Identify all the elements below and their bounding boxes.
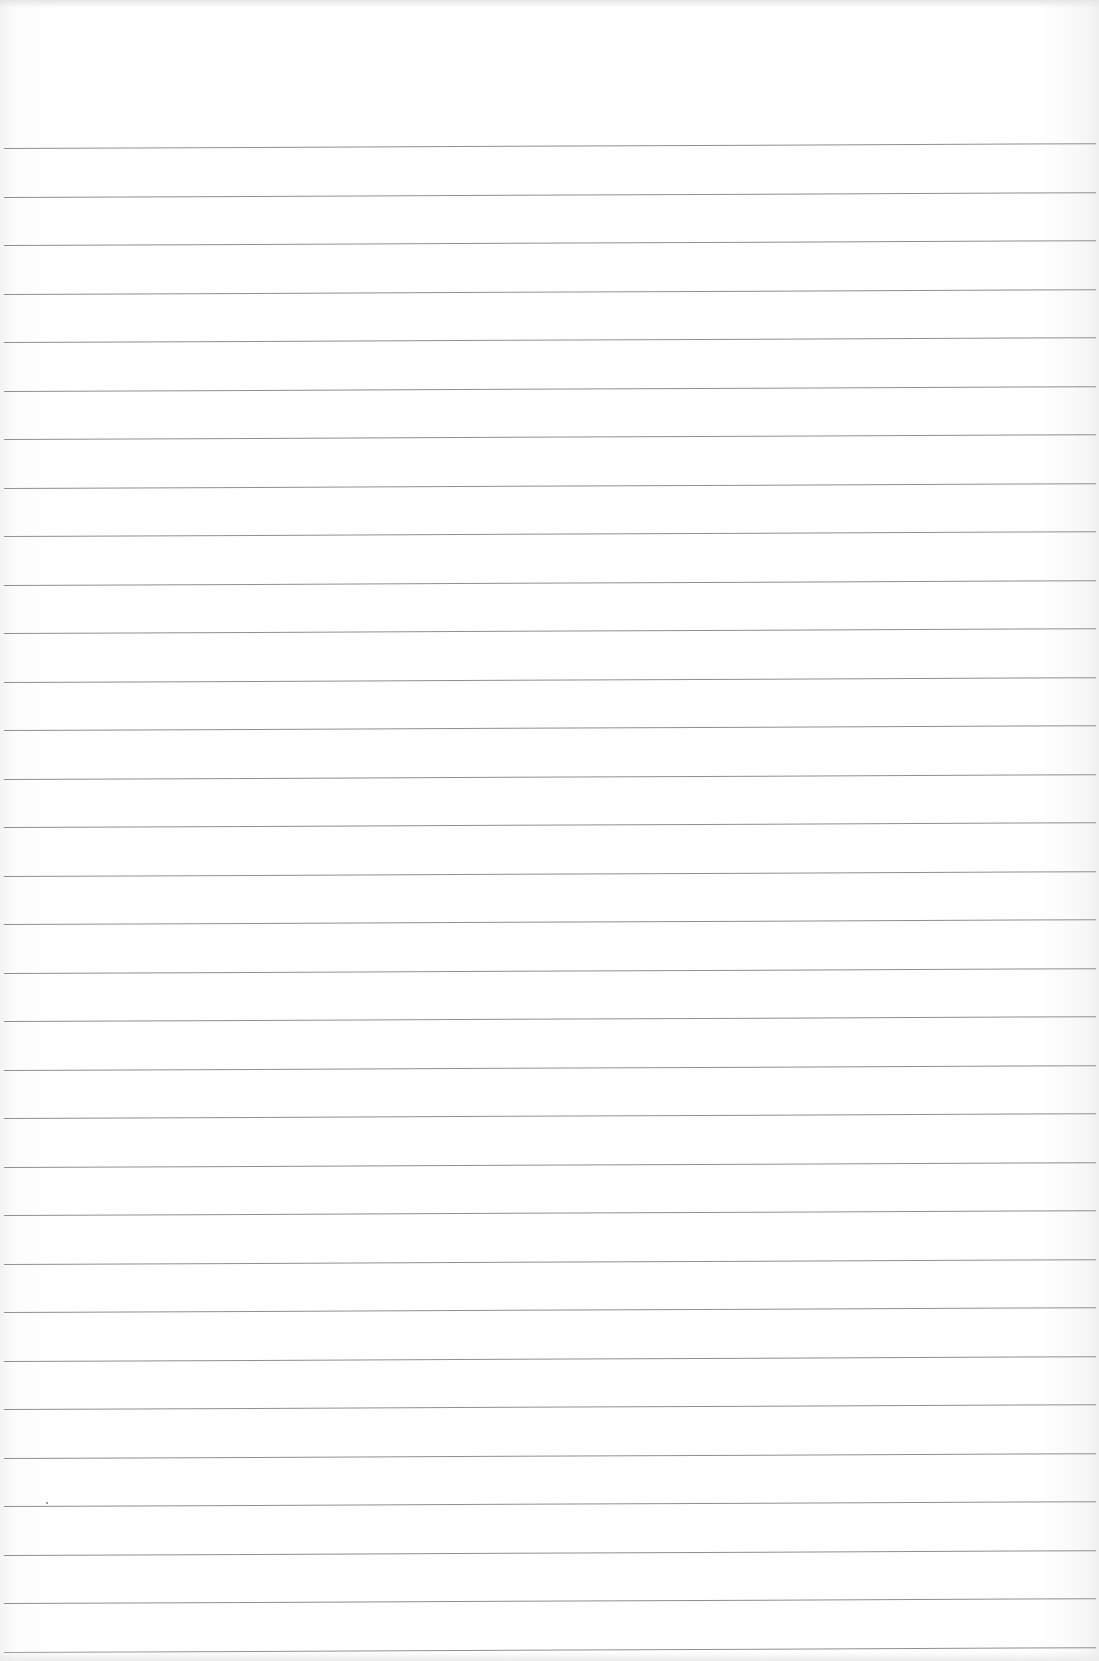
ruled-line: [4, 677, 1096, 683]
ruled-line: [4, 725, 1096, 731]
ruled-line: [4, 1307, 1096, 1313]
ruled-line: [4, 386, 1096, 392]
ruled-line: [4, 628, 1096, 634]
ruled-line: [4, 1016, 1096, 1022]
ruled-line: [4, 822, 1096, 828]
speck: [46, 1502, 48, 1504]
ruled-line: [4, 1550, 1096, 1556]
ruled-line: [4, 774, 1096, 780]
ruled-line: [4, 1404, 1096, 1410]
ruled-line: [4, 1259, 1096, 1265]
ruled-line: [4, 483, 1096, 489]
ruled-line: [4, 1356, 1096, 1362]
ruled-line: [4, 143, 1096, 149]
ruled-line: [4, 919, 1096, 925]
ruled-line: [4, 968, 1096, 974]
ruled-line: [4, 1453, 1096, 1459]
ruled-line: [4, 1501, 1096, 1507]
ruled-line: [4, 531, 1096, 537]
ruled-line: [4, 1113, 1096, 1119]
scan-bottom-edge: [0, 1651, 1099, 1661]
ruled-line: [4, 871, 1096, 877]
ruled-line: [4, 337, 1096, 343]
ruled-line: [4, 1065, 1096, 1071]
ruled-line: [4, 1598, 1096, 1604]
ruled-line: [4, 289, 1096, 295]
ruled-line: [4, 580, 1096, 586]
ruled-line: [4, 1162, 1096, 1168]
ruled-line: [4, 1210, 1096, 1216]
ruled-line: [4, 434, 1096, 440]
scan-top-edge: [0, 0, 1099, 8]
ruled-line: [4, 240, 1096, 246]
ruled-line: [4, 192, 1096, 198]
ruled-paper-page: [0, 0, 1099, 1661]
